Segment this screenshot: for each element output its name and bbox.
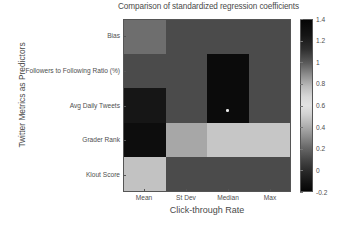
y-tick-label: Grader Rank bbox=[82, 136, 120, 144]
y-tick-label: Avg Daily Tweets bbox=[70, 102, 120, 110]
heatmap-cell bbox=[249, 54, 291, 88]
heatmap-grid bbox=[124, 20, 290, 191]
heatmap-cell bbox=[249, 88, 291, 122]
colorbar-tick-mark bbox=[300, 41, 303, 42]
heatmap-cell bbox=[124, 54, 166, 88]
y-tick-mark bbox=[123, 175, 126, 176]
y-tick-label: Klout Score bbox=[86, 171, 120, 179]
colorbar-tick-label: 1.4 bbox=[316, 16, 325, 23]
colorbar-tick-mark bbox=[300, 19, 303, 20]
x-axis-label: Click-through Rate bbox=[123, 205, 291, 215]
colorbar-tick-label: 0.4 bbox=[316, 124, 325, 131]
colorbar-tick-label: 0 bbox=[316, 167, 320, 174]
x-axis-tick-labels: MeanSt DevMedianMax bbox=[123, 193, 291, 205]
colorbar-tick-label: 1 bbox=[316, 59, 320, 66]
heatmap-cell bbox=[166, 54, 208, 88]
x-tick-mark bbox=[144, 189, 145, 192]
x-tick-mark bbox=[270, 189, 271, 192]
y-tick-mark bbox=[123, 71, 126, 72]
heatmap-cell bbox=[249, 123, 291, 157]
colorbar-tick-mark bbox=[300, 149, 303, 150]
colorbar-tick-label: -0.2 bbox=[316, 189, 327, 196]
y-tick-mark bbox=[123, 36, 126, 37]
heatmap-cell bbox=[249, 20, 291, 54]
y-tick-label: Bias bbox=[107, 32, 120, 40]
y-tick-mark bbox=[123, 106, 126, 107]
x-tick-mark bbox=[186, 189, 187, 192]
x-tick-label: Max bbox=[249, 193, 291, 205]
chart-title: Comparison of standardized regression co… bbox=[118, 2, 296, 12]
heatmap-cell bbox=[124, 88, 166, 122]
colorbar-tick-mark bbox=[300, 127, 303, 128]
heatmap-cell bbox=[207, 20, 249, 54]
heatmap-cell bbox=[124, 157, 166, 191]
heatmap-cell bbox=[207, 157, 249, 191]
heatmap-cell bbox=[166, 88, 208, 122]
colorbar-tick-mark bbox=[300, 84, 303, 85]
heatmap-cell bbox=[166, 123, 208, 157]
colorbar-tick-mark bbox=[300, 192, 303, 193]
colorbar-tick-label: 0.6 bbox=[316, 102, 325, 109]
heatmap-cell bbox=[207, 123, 249, 157]
x-tick-label: Median bbox=[207, 193, 249, 205]
heatmap-cell bbox=[207, 54, 249, 88]
colorbar-tick-mark bbox=[300, 62, 303, 63]
heatmap-cell bbox=[166, 20, 208, 54]
colorbar-tick-mark bbox=[300, 106, 303, 107]
heatmap-cell bbox=[207, 88, 249, 122]
y-tick-mark bbox=[123, 140, 126, 141]
colorbar-tick-label: 0.2 bbox=[316, 145, 325, 152]
cell-marker-dot bbox=[226, 109, 229, 112]
colorbar-tick-label: 1.2 bbox=[316, 37, 325, 44]
heatmap-cell bbox=[166, 157, 208, 191]
heatmap-plot-area bbox=[123, 19, 291, 192]
heatmap-cell bbox=[249, 157, 291, 191]
x-tick-label: St Dev bbox=[165, 193, 207, 205]
heatmap-cell bbox=[124, 123, 166, 157]
heatmap-cell bbox=[124, 20, 166, 54]
y-axis-tick-labels: BiasFollowers to Following Ratio (%)Avg … bbox=[0, 19, 120, 192]
y-tick-label: Followers to Following Ratio (%) bbox=[25, 67, 120, 75]
x-tick-label: Mean bbox=[123, 193, 165, 205]
colorbar-tick-mark bbox=[300, 170, 303, 171]
colorbar-tick-label: 0.8 bbox=[316, 80, 325, 87]
x-tick-mark bbox=[228, 189, 229, 192]
